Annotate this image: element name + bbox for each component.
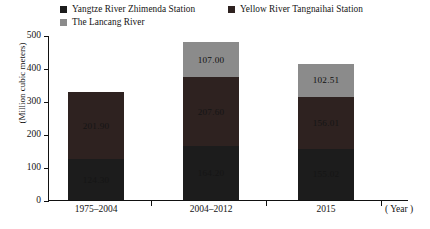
bar-label-lancang-2: 107.00	[198, 55, 224, 65]
bar-segment-lancang-2: 107.00	[183, 42, 239, 77]
y-tick-200: 200	[44, 135, 49, 136]
bar-group-2015[interactable]: 102.51 156.01 155.02	[298, 64, 354, 200]
legend-row-2: The Lancang River	[60, 16, 428, 29]
bar-label-yellow-river-1: 201.90	[83, 121, 109, 131]
bar-label-yellow-river-3: 156.01	[313, 118, 339, 128]
x-axis-title: ( Year )	[385, 204, 413, 214]
x-tick-3	[381, 201, 382, 206]
bar-segment-yellow-river-3: 156.01	[298, 97, 354, 149]
y-tick-label-500: 500	[27, 30, 41, 41]
legend-swatch-yellow-river-square-marker-icon	[228, 6, 235, 13]
y-tick-label-400: 400	[27, 63, 41, 74]
bar-segment-yellow-river-2: 207.60	[183, 77, 239, 146]
plot-area: 500 400 300 200 100 0 201.90 124.30	[48, 36, 408, 201]
y-tick-300: 300	[44, 102, 49, 103]
bar-label-yangtze-3: 155.02	[313, 169, 339, 179]
legend-item-lancang[interactable]: The Lancang River	[60, 16, 228, 28]
legend-label-yangtze: Yangtze River Zhimenda Station	[72, 3, 195, 15]
bar-label-lancang-3: 102.51	[313, 75, 339, 85]
x-tick-label-1975-2004: 1975–2004	[56, 204, 136, 215]
chart-legend: Yangtze River Zhimenda Station Yellow Ri…	[60, 3, 428, 29]
bar-segment-yangtze-3: 155.02	[298, 149, 354, 200]
bar-segment-lancang-3: 102.51	[298, 64, 354, 98]
legend-label-yellow-river: Yellow River Tangnaihai Station	[240, 3, 363, 15]
legend-label-lancang: The Lancang River	[72, 16, 145, 28]
x-tick-label-2004-2012: 2004–2012	[171, 204, 251, 215]
bar-label-yangtze-2: 164.20	[198, 168, 224, 178]
legend-item-yellow-river[interactable]: Yellow River Tangnaihai Station	[228, 3, 424, 15]
y-tick-100: 100	[44, 168, 49, 169]
legend-row-1: Yangtze River Zhimenda Station Yellow Ri…	[60, 3, 428, 16]
y-tick-500: 500	[44, 36, 49, 37]
y-tick-label-200: 200	[27, 129, 41, 140]
bar-group-2004-2012[interactable]: 107.00 207.60 164.20	[183, 42, 239, 200]
bar-group-1975-2004[interactable]: 201.90 124.30	[68, 92, 124, 200]
y-axis-line	[48, 36, 49, 201]
y-tick-0: 0	[44, 201, 49, 202]
legend-swatch-yangtze-square-marker-icon	[60, 6, 67, 13]
y-tick-400: 400	[44, 69, 49, 70]
x-tick-1	[151, 201, 152, 206]
legend-item-yangtze[interactable]: Yangtze River Zhimenda Station	[60, 3, 228, 15]
y-tick-label-100: 100	[27, 162, 41, 173]
y-tick-label-0: 0	[36, 195, 41, 206]
bar-label-yellow-river-2: 207.60	[198, 107, 224, 117]
legend-swatch-lancang-square-marker-icon	[60, 19, 67, 26]
y-axis-title: (Million cubic meters)	[17, 23, 27, 143]
bar-segment-yangtze-1: 124.30	[68, 159, 124, 200]
x-tick-2	[266, 201, 267, 206]
stacked-bar-chart: Yangtze River Zhimenda Station Yellow Ri…	[0, 0, 430, 229]
bar-segment-yellow-river-1: 201.90	[68, 92, 124, 159]
x-tick-label-2015: 2015	[286, 204, 366, 215]
bar-label-yangtze-1: 124.30	[83, 175, 109, 185]
bar-segment-yangtze-2: 164.20	[183, 146, 239, 200]
y-tick-label-300: 300	[27, 96, 41, 107]
